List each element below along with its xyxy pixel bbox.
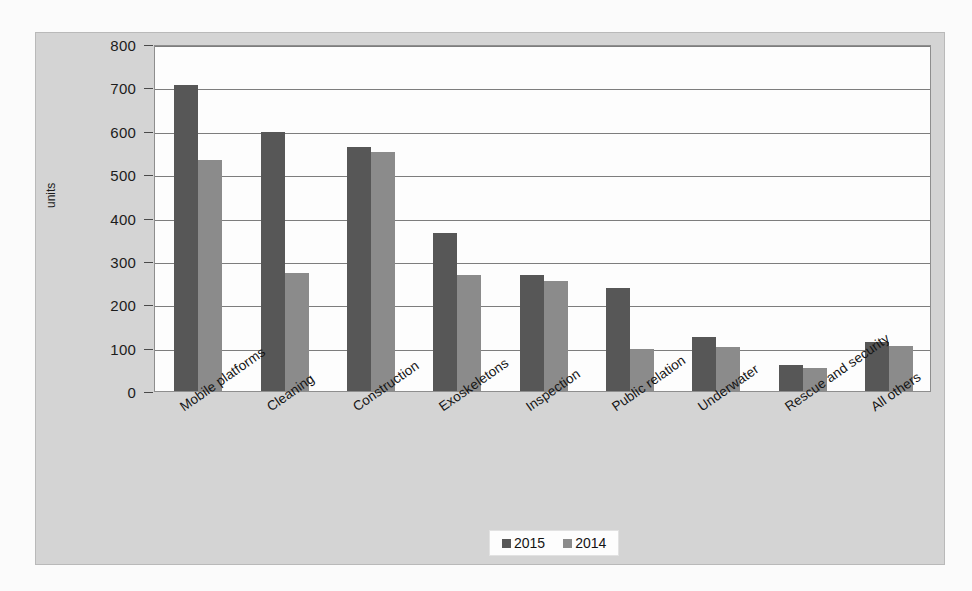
bar-2015[interactable] <box>520 275 544 391</box>
y-axis-title: units <box>44 183 58 208</box>
y-axis-tick-mark <box>144 88 153 89</box>
y-axis-tick-mark <box>144 349 153 350</box>
chart-legend: 20152014 <box>489 530 619 556</box>
y-axis-tick-mark <box>144 262 153 263</box>
plot-area <box>154 45 931 392</box>
y-axis-tick-label: 800 <box>76 37 136 54</box>
legend-entry[interactable]: 2014 <box>563 535 606 551</box>
y-axis-tick-mark <box>144 392 153 393</box>
y-axis-tick-mark <box>144 175 153 176</box>
y-axis-tick-label: 600 <box>76 123 136 140</box>
y-axis-tick-label: 100 <box>76 340 136 357</box>
y-axis-tick-label: 400 <box>76 210 136 227</box>
y-axis-tick-mark <box>144 219 153 220</box>
bar-group <box>520 46 568 391</box>
y-axis-tick-label: 200 <box>76 297 136 314</box>
bar-2015[interactable] <box>347 147 371 391</box>
bar-group <box>433 46 481 391</box>
bar-group <box>261 46 309 391</box>
bar-2015[interactable] <box>433 233 457 391</box>
y-axis-tick-mark <box>144 305 153 306</box>
bar-2015[interactable] <box>779 365 803 391</box>
chart-panel: units 0100200300400500600700800 Mobile p… <box>35 32 945 565</box>
bar-2014[interactable] <box>198 160 222 391</box>
bar-2014[interactable] <box>371 152 395 391</box>
y-axis-tick-mark <box>144 132 153 133</box>
y-axis-tick-mark <box>144 45 153 46</box>
bar-2015[interactable] <box>692 337 716 391</box>
bar-group <box>779 46 827 391</box>
legend-swatch-icon <box>502 539 511 548</box>
y-axis-tick-label: 700 <box>76 80 136 97</box>
bar-group <box>692 46 740 391</box>
bar-group <box>174 46 222 391</box>
legend-label: 2014 <box>575 535 606 551</box>
bar-group <box>606 46 654 391</box>
legend-label: 2015 <box>514 535 545 551</box>
bar-2015[interactable] <box>606 288 630 391</box>
y-axis-tick-label: 500 <box>76 167 136 184</box>
legend-swatch-icon <box>563 539 572 548</box>
y-axis-tick-label: 0 <box>76 384 136 401</box>
y-axis-tick-label: 300 <box>76 253 136 270</box>
legend-entry[interactable]: 2015 <box>502 535 545 551</box>
bar-group <box>347 46 395 391</box>
bar-2015[interactable] <box>174 85 198 391</box>
